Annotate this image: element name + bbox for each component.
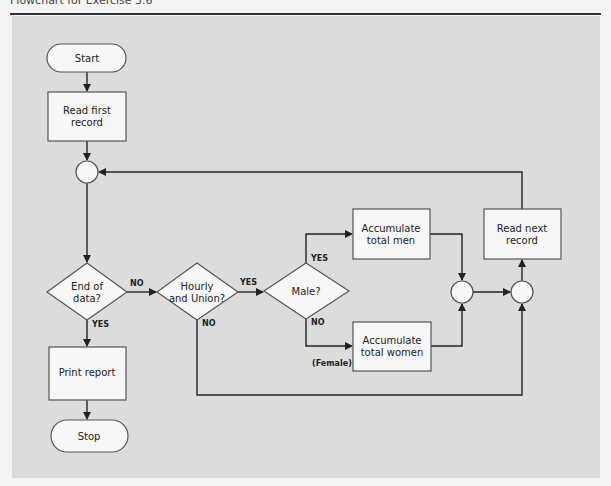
read-next-line1: Read next [497, 223, 548, 234]
read-next-record-box [484, 209, 561, 259]
connector-gender-merge [451, 281, 473, 303]
hourly-union-line2: and Union? [169, 293, 225, 304]
male-label: Male? [292, 286, 321, 297]
label-female: (Female) [312, 359, 352, 368]
acc-men-line1: Accumulate [361, 223, 420, 234]
read-first-line1: Read first [63, 105, 111, 116]
print-report-label: Print report [59, 367, 116, 378]
read-next-line2: record [506, 235, 538, 246]
hourly-union-line1: Hourly [181, 281, 214, 292]
label-end-yes: YES [91, 320, 109, 329]
end-of-data-line1: End of [71, 281, 103, 292]
label-end-no: NO [130, 279, 144, 288]
flowchart: Start Read first record End of data? Hou… [0, 0, 611, 486]
connector-all-merge [511, 281, 533, 303]
edge-women-merge [431, 304, 462, 346]
label-male-yes: YES [310, 254, 328, 263]
label-hourly-yes: YES [239, 278, 257, 287]
label-male-no: NO [311, 318, 325, 327]
end-of-data-line2: data? [73, 293, 101, 304]
edge-men-merge [430, 234, 462, 280]
connector-top [76, 161, 98, 183]
acc-men-line2: total men [367, 235, 415, 246]
edges [87, 72, 522, 419]
stop-label: Stop [78, 431, 101, 442]
label-hourly-no: NO [202, 319, 216, 328]
read-first-line2: record [71, 117, 103, 128]
acc-women-line1: Accumulate [362, 335, 421, 346]
accumulate-men-box [353, 209, 430, 259]
start-label: Start [75, 53, 100, 64]
edge-readnext-loop [99, 172, 522, 209]
acc-women-line2: total women [361, 347, 424, 358]
